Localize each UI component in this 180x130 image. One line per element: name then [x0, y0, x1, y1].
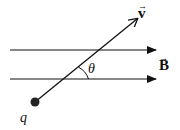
angle-label: θ: [88, 62, 95, 76]
angle-arc: [79, 67, 89, 79]
charge-label: q: [20, 111, 27, 125]
diagram-canvas: → v → B θ q: [0, 0, 180, 130]
velocity-label: → v: [138, 6, 146, 21]
field-label: → B: [159, 58, 169, 73]
velocity-vector: [35, 19, 137, 102]
charge-dot: [31, 98, 40, 107]
